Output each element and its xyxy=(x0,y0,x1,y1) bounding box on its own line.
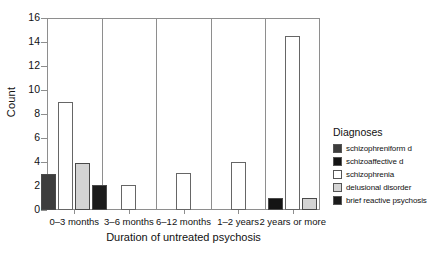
panel-separator xyxy=(102,19,103,209)
y-axis-title: Count xyxy=(5,67,17,137)
legend-item: schizophreniform d xyxy=(333,143,438,154)
bar xyxy=(41,174,56,210)
bar xyxy=(92,185,107,210)
y-tick-label: 6 xyxy=(0,131,40,143)
x-tick-label: 0–3 months xyxy=(49,216,99,227)
legend-swatch-icon xyxy=(333,196,342,205)
x-tick-label: 2 years or more xyxy=(259,216,326,227)
legend-items: schizophreniform dschizoaffective dschiz… xyxy=(333,143,438,206)
bar xyxy=(268,198,283,210)
y-tick-label: 10 xyxy=(0,83,40,95)
y-tick-label: 8 xyxy=(0,107,40,119)
y-tick-label: 4 xyxy=(0,155,40,167)
x-tick-mark xyxy=(184,210,185,214)
x-tick-mark xyxy=(74,210,75,214)
bar xyxy=(58,102,73,210)
bar xyxy=(231,162,246,210)
x-tick-mark xyxy=(129,210,130,214)
panel-separator xyxy=(211,19,212,209)
legend-title: Diagnoses xyxy=(333,126,438,138)
chart-figure: Count 0246810121416 0–3 months3–6 months… xyxy=(0,0,438,255)
legend-swatch-icon xyxy=(333,183,342,192)
y-tick-label: 16 xyxy=(0,11,40,23)
y-tick-label: 0 xyxy=(0,203,40,215)
x-tick-label: 3–6 months xyxy=(104,216,154,227)
legend-item-label: delusional disorder xyxy=(346,183,411,192)
legend-item-label: schizophreniform d xyxy=(346,144,412,153)
bar xyxy=(285,36,300,210)
x-tick-label: 6–12 months xyxy=(156,216,211,227)
y-tick-label: 2 xyxy=(0,179,40,191)
legend-item-label: schizophrenia xyxy=(346,170,394,179)
panel-separator xyxy=(156,19,157,209)
legend: Diagnoses schizophreniform dschizoaffect… xyxy=(333,126,438,208)
x-axis-title: Duration of untreated psychosis xyxy=(47,231,320,243)
x-tick-mark xyxy=(238,210,239,214)
bar xyxy=(121,185,136,210)
bar xyxy=(302,198,317,210)
legend-swatch-icon xyxy=(333,157,342,166)
legend-item: schizoaffective d xyxy=(333,156,438,167)
y-tick-mark xyxy=(41,210,47,211)
legend-item: brief reactive psychosis xyxy=(333,195,438,206)
bar xyxy=(176,173,191,210)
legend-swatch-icon xyxy=(333,170,342,179)
legend-item: schizophrenia xyxy=(333,169,438,180)
y-tick-label: 12 xyxy=(0,59,40,71)
x-tick-mark xyxy=(293,210,294,214)
x-tick-label: 1–2 years xyxy=(217,216,259,227)
legend-swatch-icon xyxy=(333,144,342,153)
legend-item-label: brief reactive psychosis xyxy=(346,196,427,205)
legend-item: delusional disorder xyxy=(333,182,438,193)
panel-separator xyxy=(265,19,266,209)
bar xyxy=(75,163,90,210)
legend-item-label: schizoaffective d xyxy=(346,157,403,166)
y-tick-label: 14 xyxy=(0,35,40,47)
